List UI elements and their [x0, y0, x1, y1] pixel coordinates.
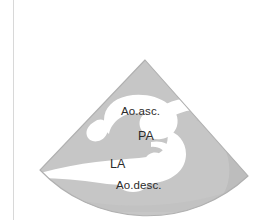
label-pulmonary-artery: PA	[138, 130, 154, 143]
label-left-atrium: LA	[110, 158, 126, 171]
label-ascending-aorta: Ao.asc.	[121, 106, 160, 118]
label-descending-aorta: Ao.desc.	[116, 180, 162, 192]
figure-root: Ao.asc. PA LA Ao.desc.	[0, 0, 273, 220]
